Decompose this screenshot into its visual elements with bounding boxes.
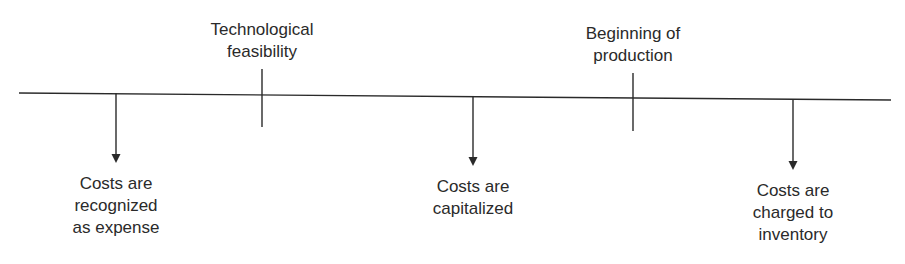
milestone-label-beginning-of-production: Beginning of production (543, 23, 723, 67)
label-line: Beginning of (543, 23, 723, 45)
label-line: Technological (172, 19, 352, 41)
milestone-label-technological-feasibility: Technological feasibility (172, 19, 352, 63)
label-line: recognized (26, 195, 206, 217)
down-arrow-icon (112, 93, 121, 163)
label-line: Costs are (703, 180, 883, 202)
outcome-label-expense: Costs are recognized as expense (26, 173, 206, 239)
down-arrow-icon (469, 96, 478, 166)
label-line: as expense (26, 217, 206, 239)
label-line: Costs are (383, 176, 563, 198)
label-line: Costs are (26, 173, 206, 195)
timeline-axis-line (19, 93, 891, 100)
label-line: capitalized (383, 198, 563, 220)
outcome-label-capitalized: Costs are capitalized (383, 176, 563, 220)
down-arrow-icon (789, 99, 798, 170)
label-line: inventory (703, 224, 883, 246)
label-line: feasibility (172, 41, 352, 63)
label-line: charged to (703, 202, 883, 224)
label-line: production (543, 45, 723, 67)
outcome-label-inventory: Costs are charged to inventory (703, 180, 883, 246)
